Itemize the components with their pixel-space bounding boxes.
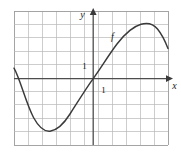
- function-graph-figure: y x f 1 1: [0, 0, 181, 153]
- x-axis-label: x: [171, 80, 177, 91]
- graph-canvas: y x f 1 1: [0, 0, 181, 153]
- x-unit-tick-label: 1: [101, 85, 106, 95]
- y-axis-label: y: [79, 9, 85, 20]
- y-unit-tick-label: 1: [82, 61, 87, 71]
